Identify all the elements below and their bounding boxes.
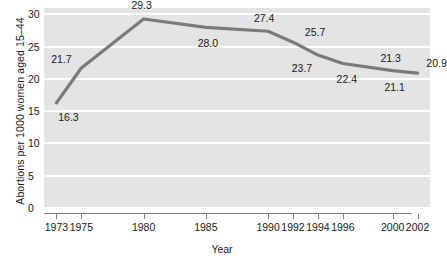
y-axis-tick-labels: 051015202530 — [0, 0, 44, 265]
y-tick-label: 0 — [28, 202, 34, 214]
x-tick-mark — [81, 214, 82, 219]
data-label-extra: 21.1 — [384, 81, 404, 93]
x-tick-mark — [418, 214, 419, 219]
data-label: 22.4 — [337, 73, 357, 85]
data-label: 16.3 — [58, 111, 78, 123]
x-tick-mark — [268, 214, 269, 219]
x-tick-label: 1985 — [194, 221, 217, 233]
x-axis-line — [44, 213, 412, 214]
data-label: 25.7 — [305, 26, 325, 38]
x-tick-label: 1994 — [306, 221, 329, 233]
data-label: 20.9 — [426, 57, 446, 69]
x-tick-mark — [56, 214, 57, 219]
x-tick-label: 1990 — [256, 221, 279, 233]
x-axis-title: Year — [0, 243, 444, 255]
x-tick-mark — [206, 214, 207, 219]
data-label: 23.7 — [292, 62, 312, 74]
data-label: 21.7 — [51, 53, 71, 65]
y-tick-label: 10 — [28, 137, 40, 149]
plot-area: 16.321.729.328.027.425.723.722.421.320.9… — [44, 8, 430, 208]
data-label: 29.3 — [131, 0, 151, 11]
y-tick-label: 15 — [28, 105, 40, 117]
x-tick-mark — [393, 214, 394, 219]
y-tick-label: 5 — [28, 170, 34, 182]
x-tick-label: 1996 — [331, 221, 354, 233]
x-tick-label: 2002 — [406, 221, 429, 233]
y-tick-label: 20 — [28, 73, 40, 85]
line-series — [44, 8, 430, 208]
data-label: 21.3 — [380, 52, 400, 64]
x-tick-mark — [144, 214, 145, 219]
x-tick-mark — [318, 214, 319, 219]
x-tick-mark — [343, 214, 344, 219]
y-tick-label: 30 — [28, 8, 40, 20]
data-label: 27.4 — [254, 12, 274, 24]
data-label: 28.0 — [198, 37, 218, 49]
y-tick-label: 25 — [28, 41, 40, 53]
x-tick-label: 1980 — [132, 221, 155, 233]
x-tick-mark — [293, 214, 294, 219]
x-tick-label: 1975 — [70, 221, 93, 233]
x-tick-label: 1992 — [281, 221, 304, 233]
x-tick-label: 1973 — [45, 221, 68, 233]
x-tick-label: 2000 — [381, 221, 404, 233]
